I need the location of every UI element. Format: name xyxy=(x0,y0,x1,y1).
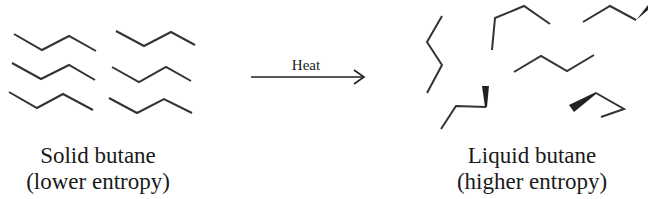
liquid-caption-title: Liquid butane xyxy=(436,143,628,169)
heat-label: Heat xyxy=(292,57,321,73)
solid-caption-title: Solid butane xyxy=(8,143,188,169)
solid-caption: Solid butane (lower entropy) xyxy=(8,143,188,195)
butane-molecule xyxy=(514,55,594,72)
butane-molecule xyxy=(441,106,486,129)
butane-molecule xyxy=(109,98,192,113)
heat-arrow: Heat xyxy=(251,57,364,84)
wedge-bond xyxy=(482,86,489,107)
butane-molecule xyxy=(14,34,96,51)
butane-molecule xyxy=(112,67,191,82)
butane-molecule xyxy=(116,31,195,46)
wedge-bond xyxy=(569,92,596,112)
butane-molecule xyxy=(583,6,636,22)
liquid-caption-subtitle: (higher entropy) xyxy=(436,169,628,195)
liquid-caption: Liquid butane (higher entropy) xyxy=(436,143,628,195)
wedge-bond xyxy=(635,5,648,21)
solid-butane-molecules xyxy=(9,31,195,113)
butane-molecule xyxy=(596,93,624,117)
solid-caption-subtitle: (lower entropy) xyxy=(8,169,188,195)
liquid-butane-molecules xyxy=(427,5,648,129)
butane-molecule xyxy=(9,92,93,110)
butane-molecule xyxy=(427,16,442,93)
butane-molecule xyxy=(12,63,95,80)
butane-molecule xyxy=(492,6,550,50)
